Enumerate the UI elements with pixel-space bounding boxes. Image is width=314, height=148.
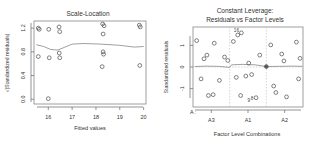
y-tick-label: 0.0	[20, 96, 26, 104]
data-point	[223, 55, 227, 59]
y-tick-label: 1	[179, 44, 185, 47]
y-tick-label: 0.8	[20, 48, 26, 56]
x-tick-label: 16	[45, 114, 51, 120]
data-point	[297, 77, 301, 81]
data-point	[226, 59, 230, 63]
data-point	[58, 56, 62, 60]
data-point	[58, 30, 62, 34]
constant-leverage-x-axis: A3A1A2	[195, 110, 301, 123]
data-point	[37, 27, 41, 31]
scale-location-svg: Scale-Location 0.00.40.81.2 1617181920 F…	[0, 0, 157, 148]
y-tick-label: 0	[179, 66, 185, 69]
constant-leverage-y-axis: 10-1	[179, 36, 193, 98]
highlighted-data-point	[265, 65, 268, 68]
constant-leverage-panel: Constant Leverage: Residuals vs Factor L…	[157, 0, 314, 148]
data-point	[202, 57, 206, 61]
constant-leverage-points	[195, 31, 302, 100]
data-point	[211, 93, 215, 97]
scale-location-panel: Scale-Location 0.00.40.81.2 1617181920 F…	[0, 0, 157, 148]
constant-leverage-svg: Constant Leverage: Residuals vs Factor L…	[157, 0, 314, 148]
y-tick-label: -1	[179, 86, 185, 91]
data-point	[138, 64, 142, 68]
x-tick-label: A2	[281, 117, 288, 123]
constant-leverage-point-labels: 1698	[234, 28, 254, 103]
data-point	[57, 51, 61, 55]
scale-location-x-axis: 1617181920	[37, 107, 147, 120]
data-point	[46, 97, 50, 101]
data-point	[199, 77, 203, 81]
data-point	[258, 53, 262, 57]
data-point	[100, 65, 104, 69]
y-tick-label: 0.4	[20, 72, 26, 80]
data-point	[244, 74, 248, 78]
data-point	[234, 75, 238, 79]
data-point	[218, 79, 222, 83]
data-point	[205, 53, 209, 57]
point-label: 16	[234, 28, 240, 33]
y-tick-label: 1.2	[20, 24, 26, 32]
point-label: 8	[251, 96, 254, 101]
data-point	[240, 31, 244, 35]
scale-location-points	[36, 22, 142, 101]
data-point	[254, 96, 258, 100]
data-point	[101, 32, 105, 36]
x-tick-label: 18	[93, 114, 99, 120]
x-tick-label: 20	[141, 114, 147, 120]
data-point	[272, 84, 276, 88]
data-point	[236, 33, 240, 37]
data-point	[274, 91, 278, 95]
data-point	[269, 43, 273, 47]
factor-group-axis-label: A :	[190, 109, 196, 115]
data-point	[47, 27, 51, 31]
x-tick-label: A1	[245, 117, 252, 123]
data-point	[231, 40, 235, 44]
data-point	[36, 55, 40, 59]
data-point	[250, 73, 254, 77]
x-tick-label: 19	[117, 114, 123, 120]
scale-location-title: Scale-Location	[67, 10, 110, 17]
scale-location-smooth-line	[36, 44, 143, 51]
data-point	[298, 56, 302, 60]
x-tick-label: 17	[69, 114, 75, 120]
data-point	[282, 59, 286, 63]
data-point	[36, 26, 40, 30]
scale-location-y-axis-title: √|Standardized residuals|	[4, 34, 10, 92]
data-point	[207, 94, 211, 98]
x-tick-label: A3	[208, 117, 215, 123]
data-point	[102, 52, 106, 56]
data-point	[47, 56, 51, 60]
scale-location-x-axis-title: Fitted values	[74, 125, 106, 131]
r-diagnostic-plots-figure: Scale-Location 0.00.40.81.2 1617181920 F…	[0, 0, 314, 148]
data-point	[285, 95, 289, 99]
data-point	[239, 94, 243, 98]
data-point	[212, 41, 216, 45]
scale-location-plot-frame	[34, 21, 146, 104]
constant-leverage-x-axis-title: Factor Level Combinations	[214, 131, 281, 137]
data-point	[280, 52, 284, 56]
constant-leverage-title-line1: Constant Leverage:	[217, 7, 274, 15]
data-point	[195, 39, 199, 43]
data-point	[57, 25, 61, 29]
constant-leverage-y-axis-title: Standardized residuals	[163, 40, 169, 93]
scale-location-y-axis: 0.00.40.81.2	[20, 23, 34, 103]
data-point	[295, 40, 299, 44]
constant-leverage-title-line2: Residuals vs Factor Levels	[206, 16, 284, 23]
smooth-curve	[36, 44, 143, 51]
